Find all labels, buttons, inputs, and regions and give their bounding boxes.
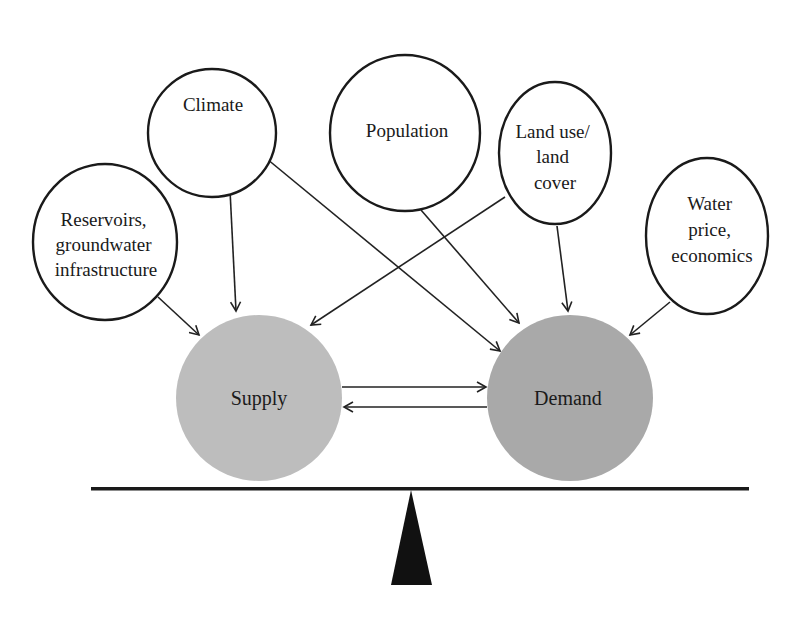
reservoirs-label-line-2: groundwater: [56, 234, 153, 255]
outcome-node-demand: Demand: [487, 315, 653, 481]
svg-text:Population: Population: [366, 120, 449, 141]
landuse-label-line-2: land: [536, 146, 569, 167]
driver-node-climate: Climate: [148, 69, 276, 197]
driver-node-reservoirs: Reservoirs, groundwater infrastructure: [33, 164, 177, 320]
supply-label: Supply: [231, 387, 288, 410]
landuse-label-line-3: cover: [534, 172, 577, 193]
reservoirs-label-line-1: Reservoirs,: [61, 209, 147, 230]
reservoirs-label-line-3: infrastructure: [55, 259, 157, 280]
landuse-label-line-1: Land use/: [515, 121, 590, 142]
balance-beam: [91, 487, 749, 491]
waterprice-label-line-2: price,: [688, 219, 731, 240]
climate-circle: [148, 69, 276, 197]
edge-population-to-demand: [421, 210, 519, 323]
waterprice-label-line-1: Water: [687, 193, 733, 214]
edge-landuse-to-supply: [311, 197, 505, 325]
demand-label: Demand: [534, 387, 602, 409]
climate-label: Climate: [183, 94, 243, 115]
driver-node-waterprice: Water price, economics: [646, 158, 768, 314]
population-label: Population: [366, 120, 449, 141]
edge-reservoirs-to-supply: [158, 297, 199, 335]
edge-landuse-to-demand: [557, 226, 568, 311]
fulcrum-triangle-icon: [391, 490, 432, 585]
outcome-node-supply: Supply: [176, 315, 342, 481]
svg-text:Climate: Climate: [183, 94, 243, 115]
edge-waterprice-to-demand: [630, 302, 670, 335]
waterprice-label-line-3: economics: [671, 245, 752, 266]
balance-scale: [91, 487, 749, 585]
supply-demand-balance-diagram: Climate Reservoirs, groundwater infrastr…: [0, 0, 798, 619]
svg-text:Reservoirs, groundwater: Reservoirs, groundwater infrastructure: [55, 209, 157, 280]
driver-node-population: Population: [330, 55, 480, 211]
driver-node-landuse: Land use/ land cover: [499, 82, 611, 224]
